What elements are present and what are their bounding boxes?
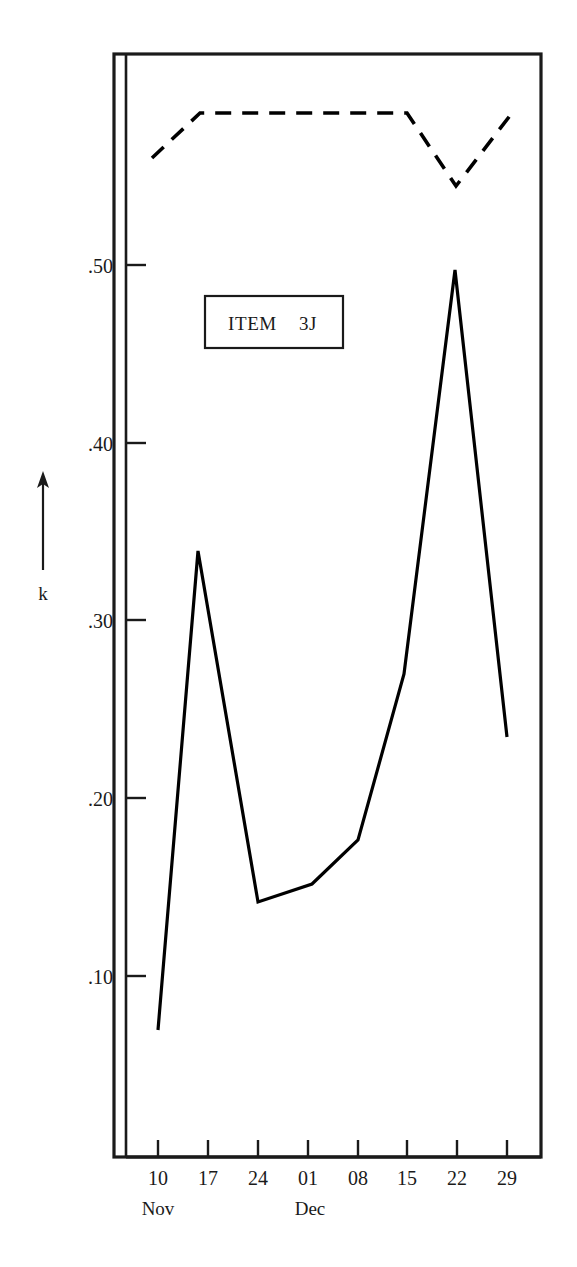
chart-figure: .50 .40 .30 .20 .10 10 17 24	[0, 0, 577, 1267]
y-tick-label: .10	[88, 966, 113, 988]
plot-frame	[114, 54, 541, 1157]
x-tick-label: 24	[248, 1167, 268, 1189]
x-tick-label: 22	[447, 1167, 467, 1189]
y-tick-labels: .50 .40 .30 .20 .10	[88, 255, 113, 988]
x-tick-labels: 10 17 24 01 08 15 22 29	[148, 1167, 517, 1189]
y-axis-title: k	[38, 583, 48, 604]
annotation-item-code: 3J	[299, 313, 317, 334]
month-label-dec: Dec	[295, 1198, 326, 1219]
annotation-box: ITEM 3J	[205, 296, 343, 348]
y-tick-label: .20	[88, 788, 113, 810]
x-tick-label: 29	[497, 1167, 517, 1189]
series-upper-dashed	[152, 113, 512, 186]
x-tick-label: 10	[148, 1167, 168, 1189]
y-tick-label: .30	[88, 610, 113, 632]
x-tick-label: 01	[298, 1167, 318, 1189]
x-tick-label: 08	[348, 1167, 368, 1189]
chart-container: .50 .40 .30 .20 .10 10 17 24	[0, 0, 577, 1267]
solid-data-line	[158, 270, 507, 1030]
y-axis-ticks	[126, 265, 146, 976]
y-axis	[126, 54, 146, 1157]
annotation-item-word: ITEM	[228, 313, 277, 334]
dashed-data-line	[152, 113, 512, 186]
y-tick-label: .50	[88, 255, 113, 277]
y-axis-title-group: k	[37, 471, 49, 604]
x-tick-label: 15	[397, 1167, 417, 1189]
series-k-solid	[158, 270, 507, 1030]
y-tick-label: .40	[88, 433, 113, 455]
x-axis	[126, 1140, 541, 1157]
x-axis-month-labels: Nov Dec	[142, 1198, 326, 1219]
month-label-nov: Nov	[142, 1198, 175, 1219]
x-axis-ticks	[158, 1140, 507, 1157]
x-tick-label: 17	[198, 1167, 218, 1189]
